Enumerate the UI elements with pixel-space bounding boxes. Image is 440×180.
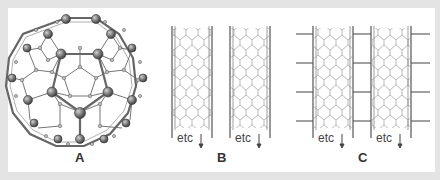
nanotube-icon xyxy=(371,26,411,138)
nanotube-pair-c xyxy=(296,26,430,148)
etc-label: etc xyxy=(235,131,251,145)
nanotube-icon xyxy=(172,26,212,138)
panel-label-b: B xyxy=(217,150,226,165)
etc-label: etc xyxy=(177,131,193,145)
panel-label-c: C xyxy=(358,150,367,165)
etc-label: etc xyxy=(376,131,392,145)
nanotube-pair-b xyxy=(172,26,270,148)
etc-label: etc xyxy=(318,131,334,145)
panel-label-a: A xyxy=(75,150,84,165)
nanotube-icon xyxy=(230,26,270,138)
buckyball-icon xyxy=(6,15,147,147)
nanotube-icon xyxy=(313,26,353,138)
